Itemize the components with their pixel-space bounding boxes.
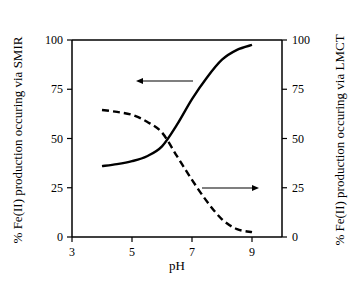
dual-axis-line-chart: 3579 0255075100 0255075100 pH % Fe(II) p… — [0, 0, 357, 297]
arrow-right-lmct — [202, 185, 259, 191]
x-axis-title: pH — [169, 258, 185, 273]
x-tick-label: 9 — [249, 245, 255, 259]
x-tick-label: 7 — [189, 245, 195, 259]
x-axis-ticks: 3579 — [69, 237, 255, 259]
right-y-axis-ticks: 0255075100 — [282, 33, 310, 244]
right-y-tick-label: 50 — [292, 132, 304, 146]
left-y-axis-title: % Fe(II) production occuring via SMIR — [10, 36, 25, 243]
left-y-axis-ticks: 0255075100 — [45, 33, 72, 244]
right-y-tick-label: 100 — [292, 33, 310, 47]
x-tick-label: 3 — [69, 245, 75, 259]
series-line-lmct — [102, 110, 252, 232]
right-y-axis-title: % Fe(II) production occuring via LMCT — [332, 34, 347, 245]
left-y-tick-label: 100 — [45, 33, 63, 47]
right-y-tick-label: 75 — [292, 82, 304, 96]
right-y-tick-label: 25 — [292, 181, 304, 195]
series-layer — [102, 45, 252, 232]
plot-frame — [72, 40, 282, 237]
left-y-tick-label: 0 — [57, 230, 63, 244]
left-y-tick-label: 75 — [51, 82, 63, 96]
arrow-left-smir — [136, 78, 193, 84]
left-y-tick-label: 50 — [51, 132, 63, 146]
arrowhead-left-icon — [136, 78, 143, 84]
right-y-tick-label: 0 — [292, 230, 298, 244]
x-tick-label: 5 — [129, 245, 135, 259]
arrowhead-right-icon — [252, 185, 259, 191]
series-line-smir — [102, 45, 252, 166]
left-y-tick-label: 25 — [51, 181, 63, 195]
